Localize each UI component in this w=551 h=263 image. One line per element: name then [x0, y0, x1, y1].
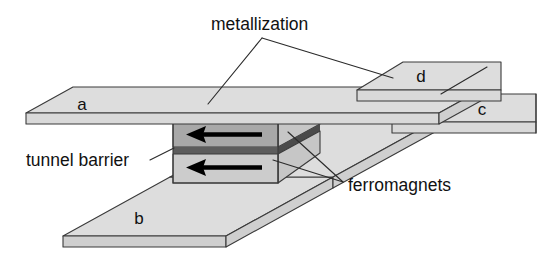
- terminal-label-a: a: [77, 95, 87, 114]
- figure-canvas: metallization tunnel barrier ferromagnet…: [0, 0, 551, 263]
- label-ferromagnets: ferromagnets: [348, 175, 451, 195]
- metallization-leader-right: [262, 38, 393, 78]
- tunnel-barrier-leader: [150, 148, 174, 160]
- mtj-schematic-svg: metallization tunnel barrier ferromagnet…: [0, 0, 551, 263]
- terminal-label-c: c: [478, 100, 487, 119]
- slab-b-front-face: [63, 236, 226, 247]
- slab-d-top-face: [357, 62, 501, 90]
- tunnel-barrier-front-face: [173, 147, 278, 154]
- terminal-label-b: b: [134, 209, 143, 228]
- label-tunnel-barrier: tunnel barrier: [26, 150, 129, 170]
- slab-a-front-face: [26, 113, 439, 124]
- slab-d: [357, 62, 501, 101]
- terminal-label-d: d: [416, 67, 425, 86]
- label-metallization: metallization: [211, 14, 308, 34]
- slab-b: [63, 177, 333, 247]
